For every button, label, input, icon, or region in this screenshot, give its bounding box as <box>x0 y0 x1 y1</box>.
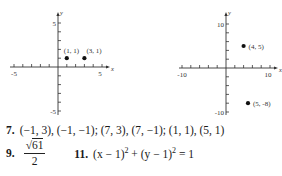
data-point <box>246 101 250 105</box>
y-axis-label: y <box>227 9 231 16</box>
data-point-label: (3, 1) <box>86 47 102 55</box>
data-point-label: (4, 5) <box>249 43 265 51</box>
data-point <box>65 56 69 60</box>
graph-exercise-6: -101010-10xy(4, 5)(5, -8) <box>141 0 282 120</box>
data-point-label: (5, -8) <box>253 100 271 108</box>
y-tick-label: 10 <box>217 21 225 29</box>
equation-part: + (y − 1) <box>128 148 172 160</box>
y-axis-label: y <box>59 9 63 16</box>
answer-number: 9. <box>6 147 15 159</box>
y-tick-label: -5 <box>50 108 56 116</box>
numerator: √61 <box>24 138 46 154</box>
answer-number: 7. <box>6 124 15 136</box>
x-axis-arrow <box>106 65 110 68</box>
radicand: 61 <box>32 138 44 151</box>
data-point <box>82 56 86 60</box>
answer-9-and-11: 9.√612 11.(x − 1)2 + (y − 1)2 = 1 <box>6 138 194 174</box>
y-tick-label: 5 <box>53 20 57 28</box>
equation-part: = 1 <box>176 148 194 160</box>
answer-number: 11. <box>74 148 88 160</box>
y-tick-label: -10 <box>215 109 225 117</box>
denominator: 2 <box>24 154 46 168</box>
x-tick-label: -10 <box>177 71 187 79</box>
fraction: √612 <box>24 138 46 168</box>
answer-text: (−1, 3), (−1, −1); (7, 3), (7, −1); (1, … <box>20 124 225 136</box>
equation-part: (x − 1) <box>93 148 124 160</box>
x-axis-label: x <box>110 65 114 72</box>
x-tick-label: 5 <box>98 70 102 78</box>
x-tick-label: -5 <box>11 70 17 78</box>
data-point <box>242 44 246 48</box>
answer-11: 11.(x − 1)2 + (y − 1)2 = 1 <box>74 146 194 160</box>
data-point-label: (1, 1) <box>64 47 80 55</box>
radical-sign: √ <box>26 139 32 151</box>
x-tick-label: 10 <box>265 71 273 79</box>
x-axis-label: x <box>278 66 282 73</box>
x-axis-arrow <box>274 66 278 69</box>
answer-7: 7.(−1, 3), (−1, −1); (7, 3), (7, −1); (1… <box>6 124 224 136</box>
graph-exercise-5: -555-5xy(1, 1)(3, 1) <box>0 0 141 120</box>
